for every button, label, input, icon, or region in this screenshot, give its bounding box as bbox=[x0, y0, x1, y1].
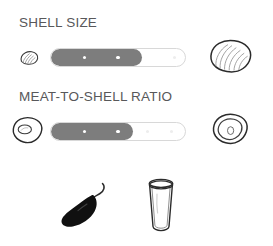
slider-tick bbox=[116, 56, 120, 60]
shell-size-slider-fill bbox=[51, 49, 142, 66]
meat-to-shell-slider[interactable] bbox=[50, 122, 186, 141]
slider-tick bbox=[170, 130, 174, 134]
rating-row-meat-to-shell-ratio bbox=[0, 112, 273, 152]
large-clam-shell-icon bbox=[186, 38, 273, 78]
slider-tick bbox=[146, 130, 150, 134]
meat-to-shell-slider-fill bbox=[51, 123, 133, 140]
page-title-shell-size: SHELL SIZE bbox=[19, 15, 97, 30]
slider-tick bbox=[116, 130, 120, 134]
small-clam-shell-icon bbox=[0, 38, 50, 78]
small-meat-oyster-icon bbox=[0, 112, 50, 152]
attribute-icon-strip bbox=[0, 172, 273, 246]
drinking-glass-icon bbox=[139, 174, 183, 240]
page-title-meat-to-shell-ratio: MEAT-TO-SHELL RATIO bbox=[19, 89, 172, 104]
shell-size-slider[interactable] bbox=[50, 48, 186, 67]
rating-row-shell-size bbox=[0, 38, 273, 78]
slider-tick bbox=[150, 56, 154, 60]
chili-pepper-icon bbox=[58, 178, 120, 240]
slider-tick bbox=[173, 56, 177, 60]
oyster-attributes-panel: SHELL SIZE bbox=[0, 0, 273, 246]
large-meat-oyster-icon bbox=[186, 112, 273, 152]
